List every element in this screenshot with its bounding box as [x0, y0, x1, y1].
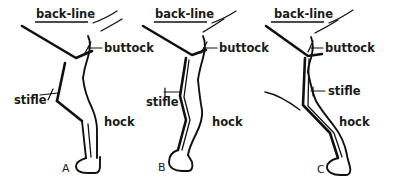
panel-b-leg-rear-contour — [188, 80, 202, 155]
panel-b-stifle-label: stifle — [146, 95, 179, 109]
panel-a-rump-curve — [101, 19, 122, 31]
panel-a-letter: A — [62, 162, 70, 175]
panel-c-reference-line — [265, 92, 300, 110]
panel-c: back-line buttock stifle — [265, 7, 375, 176]
panel-c-hock-label: hock — [339, 115, 370, 129]
panel-b-hock-label: hock — [212, 115, 243, 129]
panel-a-hoof — [76, 157, 100, 173]
panel-a-hock-label: hock — [104, 115, 135, 129]
panel-a-back-line-leader — [93, 11, 117, 23]
panel-b-buttock-label: buttock — [219, 41, 269, 55]
panel-b-leg-front — [178, 58, 186, 150]
panel-b-letter: B — [158, 161, 166, 174]
panel-a-cannon-front — [82, 121, 86, 158]
panel-b: back-line buttock stifle hock B — [143, 7, 269, 174]
panel-c-leg-front-inner — [308, 59, 342, 157]
panel-a-buttock-label: buttock — [104, 41, 154, 55]
panel-b-back-line-leader — [212, 11, 236, 23]
panel-c-back-line-label: back-line — [274, 7, 333, 21]
panel-a-back-line-label: back-line — [36, 7, 95, 21]
panel-c-letter: C — [317, 163, 325, 176]
panel-c-buttock-label: buttock — [325, 41, 375, 55]
hind-leg-conformation-figure: back-line buttock — [0, 0, 398, 185]
figure-canvas: back-line buttock — [0, 0, 398, 185]
panel-a-back-line-stroke — [22, 26, 92, 58]
panel-a-thigh-front — [57, 63, 65, 101]
panel-a-cannon-back — [88, 124, 91, 157]
panel-b-buttock-contour — [198, 36, 205, 80]
panel-a-gaskin-front — [57, 101, 82, 121]
panel-a: back-line buttock — [14, 7, 154, 175]
panel-b-back-line-label: back-line — [155, 7, 214, 21]
panel-c-stifle-label: stifle — [328, 84, 361, 98]
panel-a-buttock-contour — [83, 36, 90, 78]
